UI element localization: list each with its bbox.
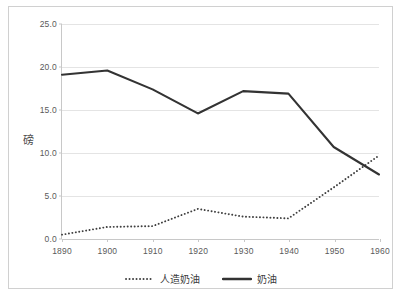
x-axis-tick-label: 1910 <box>143 246 163 256</box>
chart-legend: 人造奶油奶油 <box>9 271 392 286</box>
legend-label: 奶油 <box>257 271 277 286</box>
x-axis-tick-mark <box>198 239 199 242</box>
x-axis-tick-mark <box>153 239 154 242</box>
legend-label: 人造奶油 <box>160 271 200 286</box>
x-axis-tick-label: 1960 <box>370 246 390 256</box>
x-axis-tick-mark <box>107 239 108 242</box>
series-line <box>62 70 379 174</box>
legend-item[interactable]: 奶油 <box>222 271 277 286</box>
y-axis-tick-label: 5.0 <box>45 191 57 201</box>
series-line <box>62 156 379 235</box>
x-axis-tick-label: 1920 <box>188 246 208 256</box>
x-axis-tick-mark <box>380 239 381 242</box>
y-axis-tick-label: 20.0 <box>40 62 57 72</box>
x-axis-tick-mark <box>244 239 245 242</box>
x-axis-tick-label: 1930 <box>234 246 254 256</box>
y-axis-tick-label: 10.0 <box>40 148 57 158</box>
legend-item[interactable]: 人造奶油 <box>125 271 200 286</box>
x-axis-tick-label: 1900 <box>98 246 118 256</box>
chart-canvas: 磅 0.05.010.015.020.025.0 189019001910192… <box>9 7 392 288</box>
x-axis-tick-label: 1950 <box>325 246 345 256</box>
x-axis-tick-label: 1890 <box>52 246 72 256</box>
x-axis-tick-mark <box>335 239 336 242</box>
y-axis-tick-label: 25.0 <box>40 19 57 29</box>
gridline <box>62 239 379 240</box>
legend-swatch-dotted <box>125 274 155 284</box>
chart-frame: 磅 0.05.010.015.020.025.0 189019001910192… <box>8 6 393 289</box>
x-axis-tick-mark <box>62 239 63 242</box>
legend-swatch-solid <box>222 274 252 284</box>
y-axis-tick-label: 0.0 <box>45 234 57 244</box>
plot-area: 0.05.010.015.020.025.0 18901900191019201… <box>61 24 379 239</box>
y-axis-tick-label: 15.0 <box>40 105 57 115</box>
series-lines <box>62 24 379 239</box>
x-axis-tick-mark <box>289 239 290 242</box>
y-axis-title: 磅 <box>23 131 34 147</box>
x-axis-tick-label: 1940 <box>279 246 299 256</box>
